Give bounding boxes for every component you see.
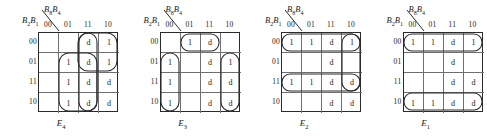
kmap-cell-r10-c10: d: [464, 93, 484, 113]
kmap-cell-r11-c10: d: [99, 73, 119, 93]
cell-value: 1: [168, 58, 172, 67]
row-headers: 00011110: [385, 32, 402, 112]
kmap-cell-r01-c01: 1: [59, 53, 79, 73]
cell-value: 1: [411, 99, 415, 108]
cell-value: d: [107, 78, 111, 87]
kmap-cell-r10-c10: d: [99, 93, 119, 113]
kmap-grid: 11d1ddd11dd: [403, 32, 483, 112]
kmap-cell-r01-c10: 1: [221, 53, 241, 73]
column-variable-label: B8B4: [409, 4, 425, 16]
kmap-cell-r11-c00: 1: [282, 73, 302, 93]
kmap-cell-r11-c01: [424, 73, 444, 93]
row-header-10: 10: [385, 92, 402, 112]
kmap-caption: E1: [365, 118, 487, 130]
cell-value: 1: [290, 38, 294, 47]
column-header-11: 11: [443, 20, 463, 29]
cell-value: 1: [310, 78, 314, 87]
kmap-cell-r10-c01: 1: [59, 93, 79, 113]
row-header-11: 11: [385, 72, 402, 92]
kmap-cell-r10-c10: d: [342, 93, 362, 113]
column-header-10: 10: [463, 20, 483, 29]
row-header-01: 01: [385, 52, 402, 72]
kmap-cell-r10-c11: d: [79, 93, 99, 113]
row-header-01: 01: [142, 52, 159, 72]
row-header-10: 10: [142, 92, 159, 112]
column-headers: 00011110: [38, 20, 118, 31]
row-header-00: 00: [385, 32, 402, 52]
kmap-cell-r11-c01: 1: [59, 73, 79, 93]
cell-value: d: [472, 99, 476, 108]
column-header-10: 10: [341, 20, 361, 29]
kmap-figure: B8B4B2B10001111000011110d11d11dd1ddE4B8B…: [0, 0, 487, 139]
kmap-caption: E3: [122, 118, 244, 130]
kmap-cell-r00-c00: 1: [404, 33, 424, 53]
column-header-11: 11: [78, 20, 98, 29]
cell-value: 1: [67, 58, 71, 67]
kmap-cell-r00-c11: d: [79, 33, 99, 53]
kmap-cell-r00-c00: 1: [282, 33, 302, 53]
kmap-cell-r10-c01: 1: [424, 93, 444, 113]
kmap-cell-r11-c11: d: [322, 73, 342, 93]
column-header-01: 01: [301, 20, 321, 29]
kmap-cell-r10-c00: [282, 93, 302, 113]
column-header-00: 00: [38, 20, 58, 29]
kmap-cell-r11-c10: d: [342, 73, 362, 93]
cell-value: d: [229, 99, 233, 108]
row-header-01: 01: [20, 52, 37, 72]
column-header-01: 01: [423, 20, 443, 29]
cell-value: 1: [431, 99, 435, 108]
kmap-cell-r01-c10: 1: [99, 53, 119, 73]
kmap-caption: E2: [243, 118, 365, 130]
cell-value: d: [208, 78, 212, 87]
cell-value: d: [350, 78, 354, 87]
kmap-cell-r11-c11: d: [79, 73, 99, 93]
kmap-cell-r11-c00: [39, 73, 59, 93]
cell-value: d: [451, 99, 455, 108]
column-header-00: 00: [403, 20, 423, 29]
kmap-cell-r11-c01: [181, 73, 201, 93]
kmap-cell-r01-c00: [282, 53, 302, 73]
kmap-cell-r00-c11: d: [444, 33, 464, 53]
cell-value: d: [208, 38, 212, 47]
cell-value: 1: [168, 78, 172, 87]
kmap-cell-r00-c10: 1: [464, 33, 484, 53]
kmap-cell-r10-c00: 1: [404, 93, 424, 113]
row-header-00: 00: [263, 32, 280, 52]
column-variable-label: B8B4: [166, 4, 182, 16]
kmap-cell-r01-c10: [342, 53, 362, 73]
row-header-11: 11: [142, 72, 159, 92]
kmap-cell-r01-c11: d: [322, 53, 342, 73]
kmap-cell-r00-c01: [59, 33, 79, 53]
kmap-cell-r10-c11: d: [201, 93, 221, 113]
kmap-cell-r10-c10: d: [221, 93, 241, 113]
kmap-cell-r01-c01: [181, 53, 201, 73]
kmap-cell-r01-c11: d: [201, 53, 221, 73]
cell-value: 1: [350, 38, 354, 47]
kmap-cell-r11-c10: d: [464, 73, 484, 93]
cell-value: 1: [168, 99, 172, 108]
kmap-grid: 1d1d11dd1dd: [160, 32, 240, 112]
kmap-cell-r00-c10: 1: [342, 33, 362, 53]
kmap-cell-r11-c00: 1: [161, 73, 181, 93]
row-headers: 00011110: [20, 32, 37, 112]
row-headers: 00011110: [142, 32, 159, 112]
kmap-cell-r10-c01: [302, 93, 322, 113]
row-variable-label: B2B1: [144, 15, 160, 27]
kmap-cell-r00-c00: [39, 33, 59, 53]
column-header-00: 00: [160, 20, 180, 29]
cell-value: d: [87, 99, 91, 108]
cell-value: 1: [107, 58, 111, 67]
kmap-caption: E4: [0, 118, 122, 130]
kmap-cell-r10-c11: d: [444, 93, 464, 113]
cell-value: d: [330, 99, 334, 108]
cell-value: d: [330, 38, 334, 47]
column-headers: 00011110: [281, 20, 361, 31]
cell-value: d: [350, 99, 354, 108]
row-variable-label: B2B1: [22, 15, 38, 27]
kmap-cell-r01-c10: [464, 53, 484, 73]
cell-value: 1: [188, 38, 192, 47]
cell-value: d: [472, 78, 476, 87]
kmap-cell-r00-c10: 1: [99, 33, 119, 53]
column-header-10: 10: [98, 20, 118, 29]
cell-value: 1: [411, 38, 415, 47]
